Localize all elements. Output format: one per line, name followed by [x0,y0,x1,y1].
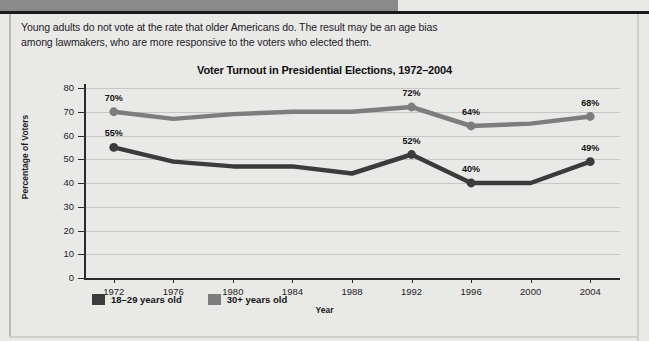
data-point-label: 64% [451,107,491,117]
chart-legend: 18–29 years old30+ years old [92,294,287,305]
page-root: Young adults do not vote at the rate tha… [0,0,649,341]
data-point-label: 52% [392,136,432,146]
intro-paragraph: Young adults do not vote at the rate tha… [21,20,471,50]
data-point-marker [109,143,118,152]
data-point-marker [109,107,118,116]
data-point-label: 72% [392,88,432,98]
legend-label: 30+ years old [227,294,287,305]
data-point-label: 68% [570,98,610,108]
series-line [114,147,590,183]
legend-label: 18–29 years old [111,294,182,305]
data-point-marker [407,103,416,112]
data-point-label: 70% [94,93,134,103]
data-point-marker [586,112,595,121]
chart-figure: Voter Turnout in Presidential Elections,… [0,60,649,341]
data-point-label: 49% [570,143,610,153]
header-gray-band [0,0,398,11]
legend-swatch-icon [208,294,221,305]
header-divider-rule [0,11,649,14]
legend-item-1: 30+ years old [208,294,287,305]
series-older [109,103,594,131]
legend-item-0: 18–29 years old [92,294,182,305]
data-point-label: 55% [94,128,134,138]
data-point-marker [467,179,476,188]
data-point-marker [407,150,416,159]
series-young [109,143,594,187]
data-point-label: 40% [451,164,491,174]
data-point-marker [586,157,595,166]
series-line [114,107,590,126]
legend-swatch-icon [92,294,105,305]
data-point-marker [467,122,476,131]
